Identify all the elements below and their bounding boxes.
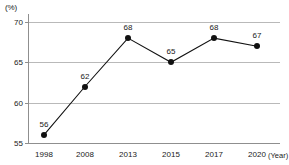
y-tick-label-70: 70 bbox=[5, 18, 23, 27]
data-point-2008 bbox=[82, 84, 88, 90]
series-polyline bbox=[44, 38, 257, 135]
x-tick-label-2008: 2008 bbox=[76, 150, 94, 159]
data-point-2013 bbox=[125, 35, 131, 41]
x-tick-label-1998: 1998 bbox=[35, 150, 53, 159]
data-label-2017: 68 bbox=[210, 23, 219, 32]
y-tick-label-65: 65 bbox=[5, 58, 23, 67]
x-tick-label-2013: 2013 bbox=[119, 150, 137, 159]
series-line-layer bbox=[0, 0, 289, 165]
y-tick-label-60: 60 bbox=[5, 99, 23, 108]
line-chart: (%) 70 65 60 55 56 62 68 65 68 67 1998 2… bbox=[0, 0, 289, 165]
y-tickmark-60 bbox=[25, 103, 28, 104]
data-label-2020: 67 bbox=[253, 31, 262, 40]
y-axis-line bbox=[28, 14, 29, 144]
x-tick-label-2017: 2017 bbox=[205, 150, 223, 159]
x-tick-label-2015: 2015 bbox=[162, 150, 180, 159]
y-tickmark-70 bbox=[25, 22, 28, 23]
y-tickmark-55 bbox=[25, 143, 28, 144]
x-tick-label-2020: 2020 bbox=[248, 150, 266, 159]
data-point-2020 bbox=[254, 43, 260, 49]
data-point-1998 bbox=[41, 132, 47, 138]
data-label-2008: 62 bbox=[81, 72, 90, 81]
data-point-2017 bbox=[211, 35, 217, 41]
y-axis-unit-label: (%) bbox=[5, 3, 17, 12]
gridline-70 bbox=[28, 22, 280, 23]
data-label-2015: 65 bbox=[167, 47, 176, 56]
gridline-65 bbox=[28, 62, 280, 63]
data-label-2013: 68 bbox=[124, 23, 133, 32]
data-point-2015 bbox=[168, 59, 174, 65]
y-tick-label-55: 55 bbox=[5, 139, 23, 148]
x-axis-unit-label: (Year) bbox=[268, 151, 288, 160]
gridline-60 bbox=[28, 103, 280, 104]
data-label-1998: 56 bbox=[40, 120, 49, 129]
x-axis-line bbox=[28, 143, 280, 144]
y-tickmark-65 bbox=[25, 62, 28, 63]
